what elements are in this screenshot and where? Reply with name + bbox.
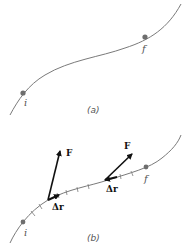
force-label-1: F — [66, 148, 73, 158]
panel-b: i f (b) F Δr F Δr — [10, 135, 181, 243]
vector-set-1: F Δr — [48, 148, 73, 212]
final-point-a — [142, 34, 147, 39]
final-label-b: f — [143, 173, 150, 184]
force-arrow-2 — [105, 154, 132, 180]
initial-point-b — [21, 220, 26, 225]
vector-set-2: F Δr — [105, 141, 132, 194]
caption-a: (a) — [87, 105, 100, 115]
displacement-label-1: Δr — [52, 202, 64, 212]
path-curve-a — [10, 4, 181, 115]
initial-label-a: i — [24, 97, 27, 108]
final-label-a: f — [141, 43, 148, 54]
caption-b: (b) — [87, 233, 100, 243]
initial-point-a — [20, 90, 25, 95]
final-point-b — [144, 165, 149, 170]
initial-label-b: i — [24, 227, 27, 238]
panel-a: i f (a) — [10, 4, 181, 115]
displacement-label-2: Δr — [106, 184, 118, 194]
force-label-2: F — [124, 141, 131, 151]
path-curve-b — [10, 135, 181, 243]
force-arrow-1 — [48, 151, 60, 200]
work-path-diagram: i f (a) i f (b) F Δr — [0, 0, 187, 247]
